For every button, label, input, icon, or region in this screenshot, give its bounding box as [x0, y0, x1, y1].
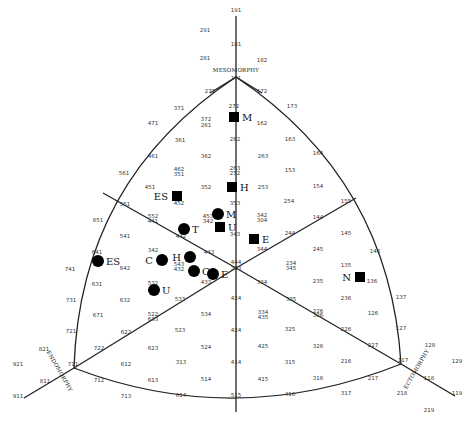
somatotype-code-label: 424	[231, 295, 242, 301]
square-marker	[172, 191, 182, 201]
somatotype-code-label: 671	[93, 312, 104, 318]
somatotype-code-label: 291	[200, 27, 211, 33]
somatotype-code-label: 162	[257, 120, 268, 126]
point-label: H	[240, 182, 249, 193]
somatotype-code-label: 515	[231, 392, 242, 398]
point-label: U	[162, 285, 170, 296]
somatotype-code-label: 741	[65, 266, 76, 272]
somatotype-code-label: 362	[201, 153, 212, 159]
somatotype-code-label: 333	[231, 265, 242, 271]
somatotype-code-label: 371	[174, 105, 185, 111]
somatotype-code-label: 219	[424, 407, 435, 413]
somatotype-code-label: 524	[201, 344, 212, 350]
somatotype-code-label: 171	[231, 75, 242, 81]
somatotype-code-label: 451	[145, 184, 156, 190]
somatotype-code-label: 641	[92, 249, 103, 255]
ectomorphy-axis-label: ECTOMORPHY	[402, 348, 430, 390]
somatotype-code-label: 217	[368, 375, 379, 381]
somatotype-code-label: 252	[230, 170, 241, 176]
somatotype-code-label: 272	[229, 103, 240, 109]
somatotype-code-label: 533	[175, 296, 186, 302]
somatotype-code-label: 642	[120, 265, 131, 271]
somatotype-code-label: 614	[176, 392, 187, 398]
somatotype-code-label: 281	[200, 55, 211, 61]
somatotype-code-label: 541	[120, 233, 131, 239]
somatotype-code-label: 911	[13, 393, 24, 399]
point-label: ES	[106, 256, 120, 267]
somatotype-code-label: 146	[370, 248, 381, 254]
somatotype-code-label: 313	[176, 359, 187, 365]
somatotype-code-label: 353	[230, 200, 241, 206]
square-marker	[215, 222, 225, 232]
somatotype-code-label: 117	[398, 357, 409, 363]
point-label: T	[192, 224, 199, 235]
somatotype-code-label: 153	[285, 167, 296, 173]
somatotype-code-label: 262	[230, 136, 241, 142]
somatochart: MESOMORPHY ENDOMORPHY ECTOMORPHY 1912911…	[0, 0, 473, 426]
somatotype-code-label: 713	[121, 393, 132, 399]
somatotype-code-label: 342	[203, 218, 214, 224]
somatotype-code-label: 712	[94, 377, 105, 383]
somatotype-code-label: 631	[92, 281, 103, 287]
somatotype-code-label: 361	[175, 137, 186, 143]
point-label: E	[221, 269, 228, 280]
somatotype-code-label: 534	[201, 311, 212, 317]
somatotype-code-label: 633	[148, 316, 159, 322]
somatotype-code-label: 326	[313, 343, 324, 349]
somatotype-code-label: 154	[313, 183, 324, 189]
square-marker	[249, 234, 259, 244]
somatotype-code-label: 433	[201, 279, 212, 285]
point-label: U	[228, 222, 236, 233]
somatotype-code-label: 721	[66, 328, 77, 334]
somatotype-code-label: 821	[39, 346, 50, 352]
somatotype-code-label: 216	[341, 358, 352, 364]
data-points: MHESUENMTESCHCAEU	[92, 112, 365, 296]
somatotype-code-label: 432	[174, 266, 185, 272]
somatotype-code-label: 145	[341, 230, 352, 236]
somatotype-code-label: 155	[341, 198, 352, 204]
circle-marker	[212, 208, 224, 220]
mesomorphy-axis-label: MESOMORPHY	[213, 67, 260, 73]
somatotype-code-label: 137	[396, 294, 407, 300]
somatotype-code-label: 561	[119, 170, 130, 176]
somatotype-code-label: 271	[205, 88, 216, 94]
somatotype-code-label: 226	[341, 326, 352, 332]
somatotype-code-label: 612	[121, 361, 132, 367]
somatotype-code-label: 261	[201, 122, 212, 128]
somatotype-code-label: 435	[258, 314, 269, 320]
somatotype-code-label: 317	[341, 390, 352, 396]
point-label: M	[226, 209, 236, 220]
somatotype-code-label: 118	[424, 375, 435, 381]
somatotype-code-label: 335	[286, 296, 297, 302]
somatotype-code-label: 921	[13, 361, 24, 367]
somatotype-code-label: 316	[313, 375, 324, 381]
somatotype-code-label: 236	[341, 295, 352, 301]
somatotype-code-label: 253	[258, 184, 269, 190]
somatotype-code-label: 245	[313, 246, 324, 252]
point-label: C	[145, 255, 153, 266]
square-marker	[227, 182, 237, 192]
somatotype-code-label: 263	[258, 153, 269, 159]
somatotype-code-label: 181	[231, 41, 242, 47]
somatotype-code-label: 136	[367, 278, 378, 284]
somatotype-code-label: 172	[257, 88, 268, 94]
somatotype-code-label: 731	[66, 297, 77, 303]
somatotype-code-label: 352	[201, 184, 212, 190]
somatotype-code-label: 345	[286, 265, 297, 271]
circle-marker	[188, 265, 200, 277]
somatotype-code-label: 722	[94, 345, 105, 351]
somatotype-code-label: 441	[148, 218, 159, 224]
somatotype-code-label: 244	[285, 230, 296, 236]
somatotype-code-label: 461	[148, 153, 159, 159]
circle-marker	[178, 223, 190, 235]
somatotype-code-label: 651	[93, 217, 104, 223]
somatotype-code-label: 551	[120, 201, 131, 207]
somatotype-code-label: 523	[175, 327, 186, 333]
somatotype-code-label: 414	[231, 359, 242, 365]
somatotype-code-label: 129	[452, 358, 463, 364]
somatotype-code-label: 471	[148, 120, 159, 126]
somatotype-code-label: 135	[341, 262, 352, 268]
somatotype-code-label: 425	[258, 343, 269, 349]
somatotype-code-label: 119	[452, 390, 463, 396]
point-label: N	[342, 272, 351, 283]
